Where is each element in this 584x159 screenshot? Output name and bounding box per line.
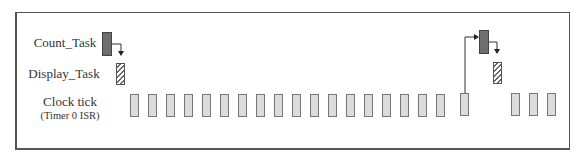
arrow-tick-to-count-2 xyxy=(465,34,479,93)
arrow-count-to-display-1 xyxy=(112,44,124,56)
connector-arrows xyxy=(0,0,584,159)
arrow-count-to-display-2 xyxy=(489,42,500,54)
